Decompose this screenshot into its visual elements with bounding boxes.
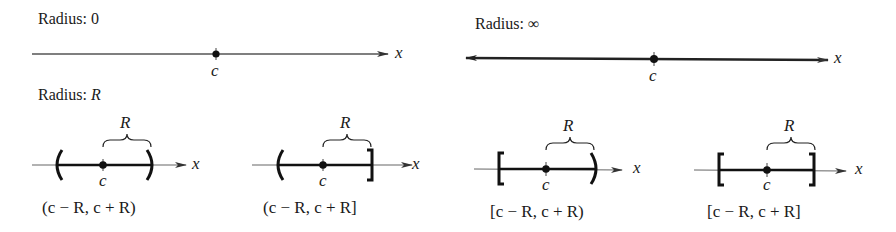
radius-label: R bbox=[784, 116, 794, 136]
center-label: c bbox=[542, 175, 550, 195]
radius-brace-icon bbox=[323, 134, 371, 147]
radius-zero-heading: Radius: 0 bbox=[38, 10, 99, 28]
center-point-icon bbox=[650, 55, 658, 63]
interval-open-closed-diagram bbox=[252, 134, 412, 180]
axis-label: x bbox=[633, 158, 641, 178]
radius-label: R bbox=[340, 113, 350, 133]
radius-brace-icon bbox=[767, 137, 815, 150]
center-label: c bbox=[99, 171, 107, 191]
radius-infinity-heading: Radius: ∞ bbox=[475, 15, 539, 33]
interval-notation: [c − R, c + R] bbox=[707, 202, 801, 222]
center-label: c bbox=[649, 66, 657, 86]
radius-label: R bbox=[120, 113, 130, 133]
radius-brace-icon bbox=[546, 137, 594, 150]
center-label: c bbox=[319, 171, 327, 191]
axis-label: x bbox=[395, 43, 403, 63]
radius-brace-icon bbox=[103, 134, 151, 147]
radius-zero-number-line bbox=[32, 48, 388, 60]
interval-notation: (c − R, c + R] bbox=[263, 198, 357, 218]
radius-infinity-number-line bbox=[466, 52, 828, 66]
interval-notation: (c − R, c + R) bbox=[42, 198, 136, 218]
center-label: c bbox=[763, 175, 771, 195]
center-point-icon bbox=[212, 50, 219, 57]
interval-notation: [c − R, c + R) bbox=[490, 202, 584, 222]
axis-label: x bbox=[192, 154, 200, 174]
axis-label: x bbox=[855, 159, 863, 179]
center-label: c bbox=[211, 61, 219, 81]
axis-label: x bbox=[834, 48, 842, 68]
interval-open-open-diagram bbox=[32, 134, 186, 180]
radius-r-heading: Radius: R bbox=[38, 86, 101, 104]
axis-label: x bbox=[412, 154, 420, 174]
radius-label: R bbox=[563, 116, 573, 136]
